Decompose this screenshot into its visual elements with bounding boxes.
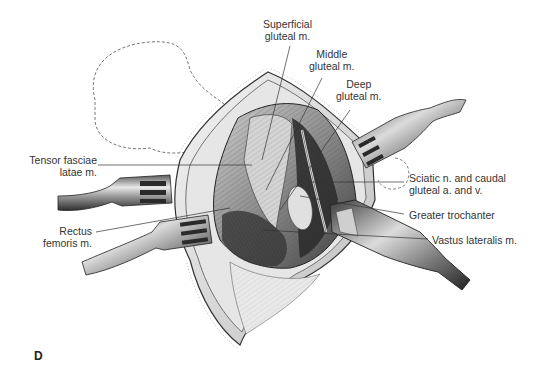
- label-line: Superficial: [263, 18, 312, 30]
- label-middle-gluteal: Middle gluteal m.: [309, 48, 355, 72]
- label-sciatic-nerve: Sciatic n. and caudal gluteal a. and v.: [409, 172, 506, 196]
- label-line: Greater trochanter: [409, 209, 495, 221]
- femur-outline: [378, 158, 409, 189]
- label-line: gluteal m.: [336, 90, 382, 102]
- label-vastus-lateralis: Vastus lateralis m.: [432, 234, 517, 246]
- label-line: Vastus lateralis m.: [432, 234, 517, 246]
- label-line: gluteal m.: [263, 30, 312, 42]
- label-line: femoris m.: [30, 237, 92, 249]
- label-superficial-gluteal: Superficial gluteal m.: [263, 18, 312, 42]
- label-greater-trochanter: Greater trochanter: [409, 209, 495, 221]
- label-line: gluteal a. and v.: [409, 184, 506, 196]
- label-line: Sciatic n. and caudal: [409, 172, 506, 184]
- label-rectus-femoris: Rectus femoris m.: [30, 225, 92, 249]
- label-deep-gluteal: Deep gluteal m.: [336, 78, 382, 102]
- retractor-upper-left: [58, 175, 172, 211]
- label-line: Deep: [336, 78, 382, 90]
- label-line: gluteal m.: [309, 60, 355, 72]
- label-line: latae m.: [22, 166, 97, 178]
- label-line: Rectus: [30, 225, 92, 237]
- label-line: Middle: [309, 48, 355, 60]
- label-line: Tensor fasciae: [22, 154, 97, 166]
- retractor-upper-right: [352, 99, 466, 168]
- label-tensor-fasciae-latae: Tensor fasciae latae m.: [22, 154, 97, 178]
- panel-letter: D: [34, 349, 43, 363]
